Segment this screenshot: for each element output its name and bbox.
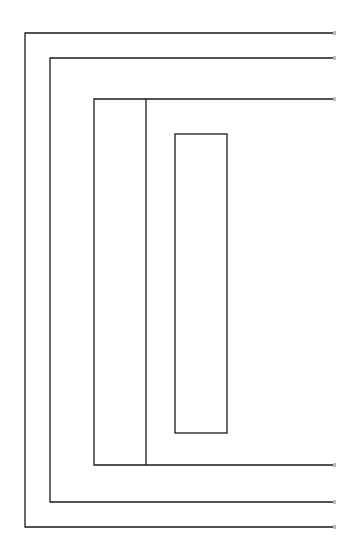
nested-rectangles-diagram <box>0 0 340 559</box>
line-end-fade <box>333 500 336 504</box>
third-layer <box>94 99 333 465</box>
line-end-fade <box>333 31 336 35</box>
inner-box <box>175 134 227 433</box>
line-end-fade <box>333 525 336 529</box>
outer-layer <box>25 33 333 527</box>
line-end-fade <box>333 463 336 467</box>
line-end-fade <box>333 97 336 101</box>
diagram-layers <box>25 31 336 529</box>
line-end-fade <box>333 56 336 60</box>
second-layer <box>50 58 333 502</box>
